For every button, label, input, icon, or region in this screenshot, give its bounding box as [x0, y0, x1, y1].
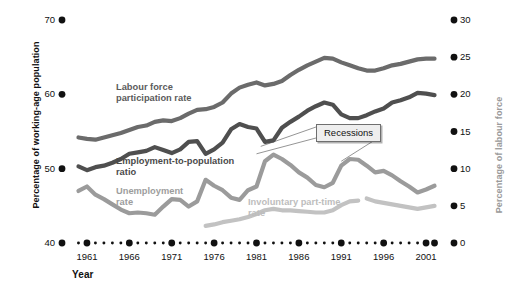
chart-container: Percentage of working-age population Per…: [0, 0, 511, 304]
y-axis-right-tick-30: 30: [460, 14, 482, 25]
x-axis-tick-1971: 1971: [152, 251, 192, 262]
y-axis-left-title: Percentage of working-age population: [31, 40, 41, 210]
series-line-involuntary-part-time-rate-segment-2: [367, 198, 435, 208]
x-axis-tick-1996: 1996: [364, 251, 404, 262]
y-axis-left-tick-60: 60: [33, 88, 55, 99]
y-axis-right-tick-dots: [451, 17, 458, 247]
x-axis-tick-2001: 2001: [406, 251, 446, 262]
series-label-labour-force-participation-rate: Labour force participation rate: [116, 82, 191, 104]
y-axis-right-tick-25: 25: [460, 51, 482, 62]
x-axis-tick-1986: 1986: [279, 251, 319, 262]
series-label-unemployment-rate: Unemployment rate: [116, 186, 183, 208]
recessions-annotation-callout: Recessions: [316, 124, 381, 142]
x-axis-tick-1981: 1981: [237, 251, 277, 262]
y-axis-left-tick-50: 50: [33, 163, 55, 174]
series-label-involuntary-part-time-rate: Involuntary part-time rate: [248, 197, 340, 219]
x-axis-tick-1976: 1976: [194, 251, 234, 262]
recession-leader-line-1: [261, 127, 316, 146]
y-axis-left-tick-dots: [59, 17, 66, 247]
series-label-employment-to-population-ratio: Employment-to-population ratio: [116, 156, 234, 178]
y-axis-right-tick-20: 20: [460, 88, 482, 99]
y-axis-right-tick-10: 10: [460, 163, 482, 174]
x-axis-title: Year: [72, 269, 94, 280]
y-axis-right-tick-15: 15: [460, 126, 482, 137]
y-axis-right-tick-0: 0: [460, 237, 482, 248]
x-axis-tick-1966: 1966: [109, 251, 149, 262]
x-axis-tick-1961: 1961: [67, 251, 107, 262]
x-axis-tick-1991: 1991: [321, 251, 361, 262]
y-axis-left-tick-40: 40: [33, 237, 55, 248]
y-axis-right-title: Percentage of labour force: [494, 80, 504, 230]
y-axis-right-tick-5: 5: [460, 200, 482, 211]
x-axis-dotted-line: [77, 240, 438, 247]
y-axis-left-tick-70: 70: [33, 14, 55, 25]
